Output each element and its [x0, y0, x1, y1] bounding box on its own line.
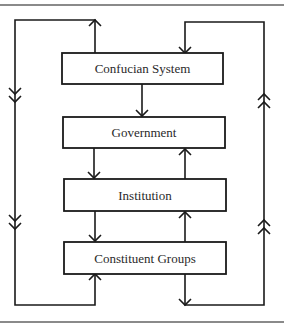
node-constituent-groups: Constituent Groups [64, 242, 226, 274]
node-institution: Institution [64, 179, 226, 211]
node-confucian-system: Confucian System [62, 53, 223, 84]
node-label: Government [112, 125, 177, 140]
node-label: Confucian System [95, 61, 191, 76]
node-label: Constituent Groups [94, 251, 195, 266]
node-government: Government [63, 117, 225, 148]
node-label: Institution [118, 188, 172, 203]
diagram-canvas: Confucian System Government Institution … [0, 0, 284, 325]
